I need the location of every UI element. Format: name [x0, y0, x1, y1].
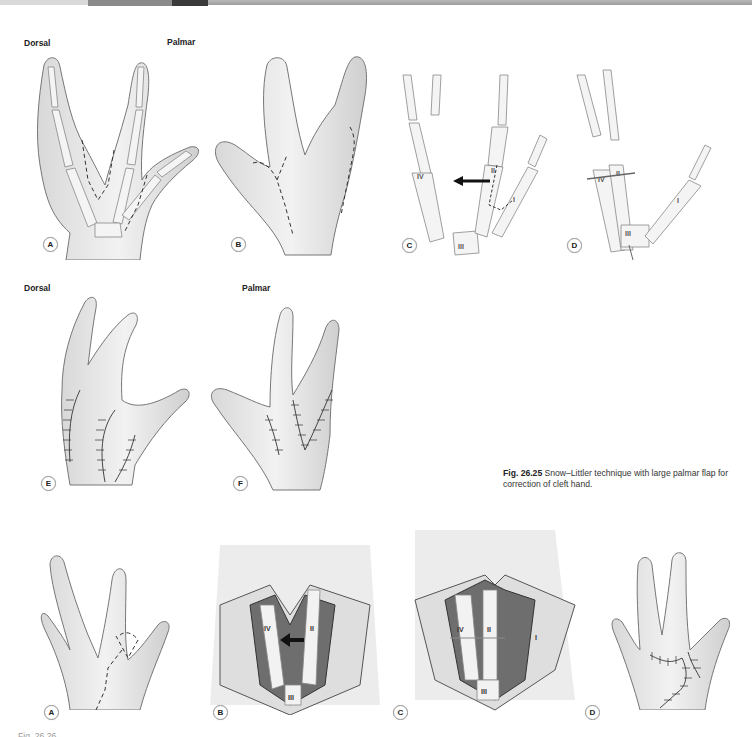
illustration-fig2-panel-c-fixed: IV II III I [405, 530, 580, 715]
header-segment [172, 0, 208, 6]
illustration-fig2-panel-d-sutured [600, 540, 745, 710]
bone-label-ii: II [491, 167, 495, 174]
hand-skeleton-illustration [0, 55, 205, 260]
panel-label-b: B [213, 705, 228, 720]
bone-label-iv: IV [417, 173, 424, 180]
bone-label-i: I [513, 196, 515, 203]
illustration-panel-a-dorsal-skeleton [0, 55, 205, 260]
bone-label-iv: IV [457, 626, 464, 633]
panel-label-d: D [567, 238, 582, 253]
bone-label-iii: III [288, 694, 294, 701]
panel-label-c: C [402, 238, 417, 253]
dorsal-sutured-hand-illustration [600, 540, 745, 710]
panel-label-c: C [393, 705, 408, 720]
bone-label-ii: II [487, 626, 491, 633]
panel-label-f: F [233, 476, 248, 491]
header-segment [88, 0, 172, 6]
dorsal-sutured-hand-illustration [40, 290, 210, 490]
bone-label-i: I [677, 197, 679, 204]
skeleton-transfer-illustration: IV III II I [385, 55, 560, 260]
figure-caption: Fig. 26.25 Snow–Littler technique with l… [503, 468, 743, 490]
panel-label-b: B [231, 237, 246, 252]
bone-label-iv: IV [264, 625, 271, 632]
panel-label-d: D [585, 705, 600, 720]
figure-number: Fig. 26.25 [503, 468, 542, 478]
header-segment [208, 0, 752, 5]
illustration-panel-e-dorsal-sutured [40, 290, 210, 490]
illustration-panel-b-palmar [205, 55, 385, 260]
page-header-bar [0, 0, 752, 6]
panel-label-a: A [44, 705, 59, 720]
view-title-palmar: Palmar [167, 37, 195, 47]
dorsal-incision-hand-illustration [30, 540, 190, 710]
palmar-hand-illustration [205, 55, 385, 260]
bone-label-i: I [535, 634, 537, 641]
bone-label-ii: II [310, 625, 314, 632]
illustration-panel-c-skeleton-transfer: IV III II I [385, 55, 560, 260]
header-segment [0, 0, 88, 5]
view-title-dorsal: Dorsal [24, 38, 50, 48]
view-title-palmar: Palmar [242, 283, 270, 293]
panel-label-e: E [41, 476, 56, 491]
skeleton-fixed-illustration: IV II III I [565, 55, 752, 260]
figure-caption-partial: Fig. 26.26 ... [18, 731, 738, 737]
illustration-panel-d-skeleton-fixed: IV II III I [565, 55, 752, 260]
bone-label-iii: III [481, 688, 487, 695]
bone-label-iii: III [458, 243, 464, 250]
panel-label-a: A [43, 237, 58, 252]
palmar-sutured-hand-illustration [205, 295, 380, 495]
bone-label-iii: III [625, 230, 631, 237]
illustration-fig2-panel-b-opened: IV II III [200, 545, 380, 715]
illustration-fig2-panel-a-incision [30, 540, 190, 710]
fixed-bones-illustration: IV II III I [405, 530, 580, 715]
opened-flap-illustration: IV II III [200, 545, 380, 715]
illustration-panel-f-palmar-sutured [205, 295, 380, 495]
